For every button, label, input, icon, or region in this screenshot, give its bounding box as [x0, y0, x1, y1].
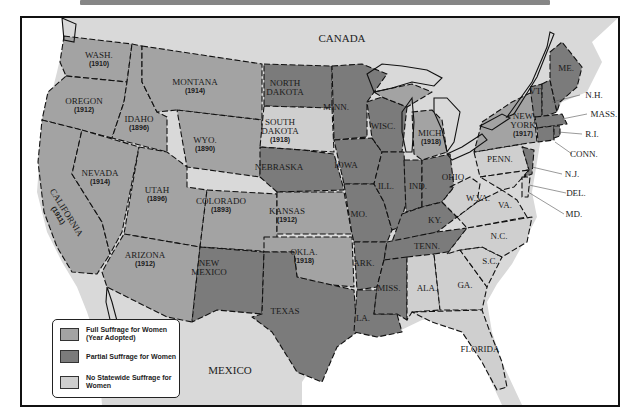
label-wyo: WYO. [193, 135, 217, 145]
label-ind: IND. [409, 181, 427, 191]
label-conn: CONN. [570, 149, 598, 159]
label-mexico: MEXICO [208, 364, 251, 376]
label-me: ME. [558, 63, 574, 73]
legend-item-none: No Statewide Suffrage for Women [60, 374, 178, 390]
label-miss: MISS. [377, 283, 400, 293]
label-iowa: IOWA [334, 160, 358, 170]
label-ohio: OHIO [442, 172, 465, 182]
label-la: LA. [356, 313, 370, 323]
legend-item-full: Full Suffrage for Women (Year Adopted) [60, 326, 178, 342]
label-tenn: TENN. [414, 241, 440, 251]
label-north-dakota-2: DAKOTA [266, 87, 304, 97]
label-utah: UTAH [145, 185, 170, 195]
year-montana: (1914) [185, 87, 205, 95]
label-va: VA. [498, 200, 512, 210]
year-wyo: (1890) [195, 145, 215, 153]
year-new-york: (1917) [513, 130, 533, 138]
label-nebraska: NEBRASKA [255, 162, 304, 172]
label-new-mexico-2: MEXICO [191, 267, 227, 277]
label-okla: OKLA. [290, 247, 317, 257]
year-south-dakota: (1918) [270, 136, 290, 144]
label-ri: R.I. [585, 129, 599, 139]
label-wisc: WISC. [371, 121, 396, 131]
label-mass: MASS. [591, 109, 618, 119]
year-oregon: (1912) [74, 106, 94, 114]
label-ky: KY. [428, 215, 442, 225]
swatch-full [60, 328, 79, 341]
label-sc: S.C. [482, 256, 498, 266]
map-legend: Full Suffrage for Women (Year Adopted) P… [52, 319, 180, 398]
map-frame: CANADA MEXICO WASH. (1910) OREGON (1912)… [20, 16, 620, 407]
label-minn: MINN. [323, 102, 349, 112]
label-nj: N.J. [565, 169, 580, 179]
legend-label-full: Full Suffrage for Women (Year Adopted) [86, 326, 178, 342]
label-florida: FLORIDA [460, 344, 500, 354]
legend-label-partial: Partial Suffrage for Women [86, 353, 178, 361]
label-colorado: COLORADO [196, 196, 247, 206]
label-ga: GA. [457, 280, 472, 290]
year-kansas: (1912) [277, 216, 297, 224]
label-mich: MICH. [418, 128, 444, 138]
year-mich: (1918) [421, 138, 441, 146]
label-mo: MO. [351, 209, 368, 219]
label-canada: CANADA [318, 32, 365, 44]
label-ark: ARK. [353, 258, 374, 268]
year-wash: (1910) [89, 60, 109, 68]
label-south-dakota-2: DAKOTA [261, 126, 299, 136]
label-new-york-2: YORK [510, 120, 536, 130]
label-wva: W.VA. [466, 193, 490, 203]
label-idaho: IDAHO [125, 114, 154, 124]
label-ala: ALA. [417, 283, 438, 293]
year-arizona: (1912) [135, 260, 155, 268]
label-del: DEL. [566, 188, 586, 198]
year-colorado: (1893) [211, 206, 231, 214]
label-oregon: OREGON [65, 96, 103, 106]
state-wyo[interactable] [177, 110, 262, 177]
swatch-partial [60, 350, 79, 363]
label-montana: MONTANA [172, 77, 218, 87]
label-nevada: NEVADA [82, 168, 119, 178]
label-kansas: KANSAS [269, 206, 305, 216]
state-conn[interactable] [537, 126, 554, 142]
label-md: MD. [566, 209, 583, 219]
label-arizona: ARIZONA [125, 250, 166, 260]
year-idaho: (1896) [129, 124, 149, 132]
year-okla: (1918) [294, 257, 314, 265]
label-nc: N.C. [490, 231, 507, 241]
year-nevada: (1914) [90, 178, 110, 186]
label-vt: VT. [529, 86, 543, 96]
label-ill: ILL. [378, 181, 394, 191]
label-texas: TEXAS [271, 306, 300, 316]
legend-item-partial: Partial Suffrage for Women [60, 350, 178, 363]
label-wash: WASH. [85, 50, 113, 60]
swatch-none [60, 376, 79, 389]
legend-label-none: No Statewide Suffrage for Women [86, 374, 178, 390]
label-nh: N.H. [585, 90, 603, 100]
cropped-title-text [80, 0, 550, 5]
label-penn: PENN. [487, 154, 513, 164]
year-utah: (1896) [147, 195, 167, 203]
